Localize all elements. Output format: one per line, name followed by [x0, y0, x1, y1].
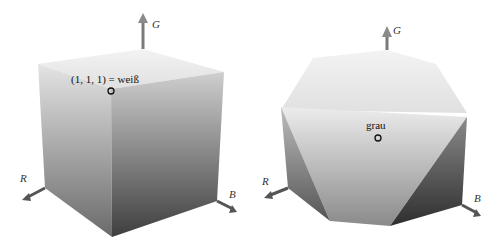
g-axis-label: G	[152, 18, 160, 30]
b-axis-label: B	[474, 192, 481, 204]
r-axis-label: R	[20, 172, 27, 184]
diagram-canvas	[0, 0, 498, 249]
b-axis-label: B	[229, 188, 236, 200]
g-axis-label: G	[393, 24, 401, 36]
b-axis-arrow	[462, 205, 477, 213]
b-axis-arrow	[217, 201, 233, 209]
r-axis-label: R	[262, 175, 269, 187]
white-point-label: (1, 1, 1) = weiß	[71, 73, 139, 85]
gray-point-label: grau	[366, 119, 386, 131]
rgb-cube	[22, 13, 237, 237]
